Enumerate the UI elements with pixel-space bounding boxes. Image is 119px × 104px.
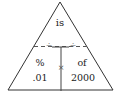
divide-right-symbol: ÷ bbox=[68, 42, 78, 50]
multiply-symbol: × bbox=[56, 64, 66, 72]
percent-label: % bbox=[30, 58, 50, 68]
top-label-is: is bbox=[50, 18, 70, 28]
triangle-shape bbox=[0, 0, 119, 104]
of-label: of bbox=[72, 58, 92, 68]
of-value: 2000 bbox=[66, 73, 100, 83]
percent-value: .01 bbox=[28, 73, 52, 83]
divide-left-symbol: ÷ bbox=[44, 42, 54, 50]
